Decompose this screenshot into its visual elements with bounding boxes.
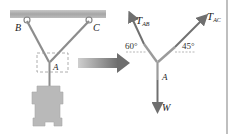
label-w: W bbox=[162, 102, 172, 113]
weight-block bbox=[32, 86, 63, 126]
fbd-cable-stubs bbox=[144, 44, 175, 80]
equilibrium-diagram: B C A TAB TAC 60° 45° A W bbox=[0, 0, 231, 134]
angle-label-60: 60° bbox=[125, 41, 138, 51]
transition-arrow-icon bbox=[78, 53, 130, 73]
label-tac: TAC bbox=[207, 10, 222, 23]
label-b: B bbox=[15, 22, 21, 33]
label-a-fbd: A bbox=[161, 72, 168, 82]
cable-ab bbox=[27, 21, 49, 62]
cable-ac bbox=[50, 21, 89, 62]
angle-label-45: 45° bbox=[182, 41, 195, 51]
label-tab: TAB bbox=[136, 14, 150, 27]
label-c: C bbox=[93, 22, 100, 33]
ceiling-beam bbox=[10, 10, 106, 18]
label-a-left: A bbox=[52, 62, 59, 72]
